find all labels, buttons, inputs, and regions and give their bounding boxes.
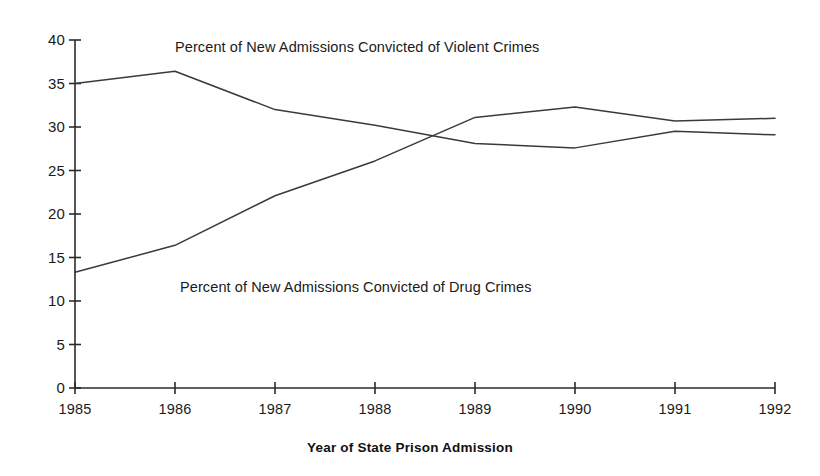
x-tick-label: 1986 [140,402,210,417]
x-tick-label: 1985 [40,402,110,417]
chart-series-group [75,71,775,272]
x-tick-label: 1989 [440,402,510,417]
x-tick-label: 1991 [640,402,710,417]
y-tick-label: 25 [25,163,65,178]
series-annotation-drug-crimes: Percent of New Admissions Convicted of D… [180,279,532,295]
y-tick-label: 10 [25,293,65,308]
x-tick-label: 1990 [540,402,610,417]
y-tick-label: 30 [25,119,65,134]
y-tick-label: 35 [25,76,65,91]
y-tick-label: 40 [25,32,65,47]
chart-container: 0510152025303540 19851986198719881989199… [0,0,820,476]
series-annotation-violent-crimes: Percent of New Admissions Convicted of V… [175,39,539,55]
x-tick-label: 1988 [340,402,410,417]
y-tick-label: 5 [25,337,65,352]
y-tick-label: 20 [25,206,65,221]
x-axis-title: Year of State Prison Admission [0,440,820,455]
y-tick-label: 0 [25,380,65,395]
y-tick-label: 15 [25,250,65,265]
x-tick-label: 1992 [740,402,810,417]
series-line-violent-crimes [75,71,775,148]
chart-axes [75,40,775,388]
x-tick-label: 1987 [240,402,310,417]
